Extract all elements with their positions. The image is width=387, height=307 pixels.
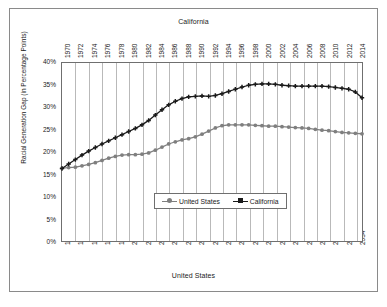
legend-label-california: California — [250, 198, 279, 205]
data-point-marker — [293, 126, 297, 130]
top-x-tick-label: 2012 — [346, 44, 353, 58]
top-x-tick-label: 1982 — [145, 44, 152, 58]
data-point-marker — [193, 94, 197, 98]
data-point-marker — [87, 163, 91, 167]
data-point-marker — [327, 129, 331, 133]
data-point-marker — [300, 84, 304, 88]
top-x-tick-label: 1978 — [118, 44, 125, 58]
top-x-tick-label: 1974 — [91, 44, 98, 58]
top-x-tick-label: 1992 — [212, 44, 219, 58]
chart-figure: California United States Racial Generati… — [9, 8, 378, 292]
data-point-marker — [233, 87, 237, 91]
top-x-tick-label: 1976 — [104, 44, 111, 58]
top-x-tick-label: 1986 — [171, 44, 178, 58]
data-point-marker — [280, 125, 284, 129]
data-point-marker — [186, 95, 190, 99]
data-point-marker — [246, 83, 250, 87]
series-california — [60, 82, 364, 171]
data-point-marker — [320, 84, 324, 88]
data-point-marker — [260, 124, 264, 128]
data-point-marker — [153, 148, 157, 152]
top-x-tick-label: 2004 — [292, 44, 299, 58]
series-line — [62, 125, 362, 168]
data-point-marker — [340, 131, 344, 135]
data-point-marker — [180, 96, 184, 100]
y-tick-label: 5% — [16, 216, 56, 223]
data-point-marker — [313, 84, 317, 88]
data-point-marker — [300, 126, 304, 130]
data-point-marker — [120, 153, 124, 157]
data-point-marker — [93, 161, 97, 165]
data-point-marker — [207, 129, 211, 133]
data-point-marker — [240, 123, 244, 127]
data-point-marker — [127, 153, 131, 157]
top-axis-title: California — [10, 18, 377, 25]
data-point-marker — [253, 123, 257, 127]
top-x-tick-label: 2000 — [265, 44, 272, 58]
top-x-tick-label: 1970 — [64, 44, 71, 58]
top-x-tick-label: 2008 — [319, 44, 326, 58]
y-tick-label: 10% — [16, 193, 56, 200]
data-point-marker — [220, 124, 224, 128]
data-point-marker — [193, 135, 197, 139]
top-x-tick-label: 1990 — [198, 44, 205, 58]
data-point-marker — [226, 89, 230, 93]
chart-legend: United States California — [154, 193, 287, 209]
data-point-marker — [286, 84, 290, 88]
data-point-marker — [167, 142, 171, 146]
data-point-marker — [213, 126, 217, 130]
y-axis-label: Racial Generation Gap (in Percentage Poi… — [20, 23, 27, 173]
data-point-marker — [273, 124, 277, 128]
series-layer — [62, 63, 362, 241]
data-point-marker — [227, 123, 231, 127]
data-point-marker — [200, 94, 204, 98]
top-x-tick-label: 1996 — [238, 44, 245, 58]
data-point-marker — [273, 82, 277, 86]
data-point-marker — [206, 94, 210, 98]
data-point-marker — [213, 93, 217, 97]
series-line — [62, 84, 362, 169]
legend-marker-united-states — [162, 197, 177, 205]
data-point-marker — [333, 130, 337, 134]
data-point-marker — [307, 127, 311, 131]
top-x-tick-label: 2002 — [279, 44, 286, 58]
data-point-marker — [293, 84, 297, 88]
top-x-tick-label: 1998 — [252, 44, 259, 58]
data-point-marker — [147, 151, 151, 155]
plot-area — [61, 62, 363, 242]
top-x-tick-label: 1972 — [77, 44, 84, 58]
data-point-marker — [240, 85, 244, 89]
data-point-marker — [313, 127, 317, 131]
bottom-axis-title: United States — [10, 272, 377, 279]
top-x-tick-label: 2006 — [306, 44, 313, 58]
data-point-marker — [326, 84, 330, 88]
top-x-tick-label: 2014 — [359, 44, 366, 58]
data-point-marker — [160, 145, 164, 149]
data-point-marker — [173, 140, 177, 144]
data-point-marker — [347, 131, 351, 135]
data-point-marker — [266, 82, 270, 86]
top-x-tick-label: 2010 — [332, 44, 339, 58]
data-point-marker — [306, 84, 310, 88]
data-point-marker — [360, 132, 364, 136]
y-tick-label: 0% — [16, 238, 56, 245]
data-point-marker — [200, 132, 204, 136]
legend-marker-california — [233, 197, 248, 205]
data-point-marker — [280, 83, 284, 87]
data-point-marker — [106, 139, 110, 143]
legend-label-united-states: United States — [179, 198, 220, 205]
data-point-marker — [333, 85, 337, 89]
top-x-tick-label: 1988 — [185, 44, 192, 58]
data-point-marker — [113, 136, 117, 140]
data-point-marker — [140, 152, 144, 156]
data-point-marker — [233, 123, 237, 127]
data-point-marker — [260, 82, 264, 86]
data-point-marker — [80, 164, 84, 168]
series-united-states — [60, 123, 364, 170]
legend-item-california: California — [233, 197, 279, 205]
data-point-marker — [253, 82, 257, 86]
data-point-marker — [346, 87, 350, 91]
data-point-marker — [67, 166, 71, 170]
top-x-tick-label: 1994 — [225, 44, 232, 58]
data-point-marker — [340, 86, 344, 90]
